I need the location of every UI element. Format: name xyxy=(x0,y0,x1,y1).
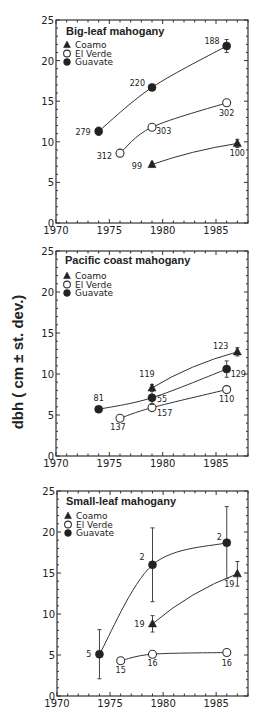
data-label: 19 xyxy=(224,580,234,589)
legend-marker xyxy=(65,530,72,537)
data-point xyxy=(148,383,156,391)
legend-marker xyxy=(65,521,72,528)
data-point xyxy=(148,123,156,131)
data-label: 110 xyxy=(219,395,234,404)
series-line xyxy=(99,543,226,655)
y-tick-label: 25 xyxy=(41,15,54,26)
data-label: 302 xyxy=(219,109,234,118)
panel-pacific-coast: Pacific coast mahogany 19701975198019850… xyxy=(41,246,248,469)
data-label: 100 xyxy=(230,149,245,158)
data-label: 157 xyxy=(157,409,172,418)
series-el-verde: 312303302 xyxy=(97,99,235,161)
data-label: 19 xyxy=(134,620,144,629)
data-point xyxy=(223,365,231,373)
data-label: 55 xyxy=(157,395,167,404)
y-tick-label: 5 xyxy=(49,650,55,661)
series-line xyxy=(152,143,237,164)
data-point xyxy=(233,347,241,355)
y-tick-label: 5 xyxy=(48,410,54,421)
x-tick-label: 1975 xyxy=(97,225,122,236)
data-point xyxy=(117,657,125,665)
data-point xyxy=(116,149,124,157)
y-axis-label: dbh ( cm ± st. dev.) xyxy=(9,295,26,430)
y-tick-label: 10 xyxy=(41,137,54,148)
series-el-verde: 137157110 xyxy=(110,386,234,433)
data-label: 99 xyxy=(132,162,142,171)
legend-label: Guavate xyxy=(75,57,114,67)
data-point xyxy=(95,127,103,135)
x-tick-label: 1980 xyxy=(150,698,175,709)
x-tick-label: 1975 xyxy=(97,458,122,469)
data-label: 16 xyxy=(147,659,157,668)
figure: dbh ( cm ± st. dev.) Big-leaf mahogany 1… xyxy=(0,0,263,725)
data-point xyxy=(223,539,231,547)
series-line xyxy=(121,653,227,661)
y-tick-label: 10 xyxy=(41,369,54,380)
series-coamo: 1919 xyxy=(134,562,241,633)
x-tick-label: 1975 xyxy=(97,698,122,709)
y-tick-label: 15 xyxy=(41,328,54,339)
data-label: 123 xyxy=(213,342,228,351)
panel-title: Big-leaf mahogany xyxy=(66,25,165,37)
data-label: 188 xyxy=(204,37,219,46)
legend-label: Guavate xyxy=(75,288,114,298)
panel-big-leaf: Big-leaf mahogany 1970197519801985051015… xyxy=(41,15,248,236)
y-tick-label: 10 xyxy=(42,609,55,620)
y-tick-label: 0 xyxy=(49,691,55,702)
data-point xyxy=(95,405,103,413)
series-line xyxy=(120,103,227,153)
x-tick-label: 1985 xyxy=(203,458,228,469)
legend-marker xyxy=(64,50,71,57)
data-label: 15 xyxy=(116,666,126,675)
x-tick-label: 1980 xyxy=(150,225,175,236)
data-label: 279 xyxy=(75,128,90,137)
legend-marker xyxy=(64,59,71,66)
data-label: 16 xyxy=(222,659,232,668)
data-point xyxy=(148,394,156,402)
data-label: 129 xyxy=(231,370,246,379)
panel-title: Small-leaf mahogany xyxy=(66,495,177,507)
data-point xyxy=(223,649,231,657)
data-point xyxy=(95,650,103,658)
data-label: 303 xyxy=(156,127,171,136)
series-line xyxy=(99,46,227,131)
data-point xyxy=(116,414,124,422)
data-label: 81 xyxy=(94,394,104,403)
y-tick-label: 5 xyxy=(48,177,54,188)
series-line xyxy=(120,390,227,419)
y-tick-label: 15 xyxy=(42,568,55,579)
y-tick-label: 25 xyxy=(41,246,54,257)
x-tick-label: 1980 xyxy=(150,458,175,469)
data-point xyxy=(223,386,231,394)
legend-marker xyxy=(64,41,71,47)
data-label: 220 xyxy=(130,79,145,88)
y-tick-label: 0 xyxy=(48,218,54,229)
data-label: 119 xyxy=(139,370,154,379)
legend-marker xyxy=(64,272,71,278)
legend-label: Guavate xyxy=(76,528,115,538)
data-label: 5 xyxy=(86,650,91,659)
x-tick-label: 1985 xyxy=(203,698,228,709)
data-point xyxy=(149,619,157,627)
y-tick-label: 25 xyxy=(42,486,55,497)
data-label: 137 xyxy=(110,423,125,432)
y-tick-label: 20 xyxy=(41,287,54,298)
legend-marker xyxy=(64,281,71,288)
data-point xyxy=(223,99,231,107)
data-point xyxy=(223,42,231,50)
data-label: 2 xyxy=(217,533,222,542)
y-tick-label: 20 xyxy=(41,56,54,67)
y-tick-label: 0 xyxy=(48,451,54,462)
data-label: 312 xyxy=(97,152,112,161)
data-point xyxy=(233,569,241,577)
data-point xyxy=(149,561,157,569)
legend-marker xyxy=(65,512,72,518)
data-point xyxy=(148,83,156,91)
panel-small-leaf: Small-leaf mahogany 19701975198019850510… xyxy=(42,486,248,709)
data-point xyxy=(233,139,241,147)
series-el-verde: 151616 xyxy=(116,649,232,675)
series-coamo: 99100 xyxy=(132,139,245,171)
y-tick-label: 15 xyxy=(41,96,54,107)
y-tick-label: 20 xyxy=(42,527,55,538)
data-label: 2 xyxy=(139,553,144,562)
